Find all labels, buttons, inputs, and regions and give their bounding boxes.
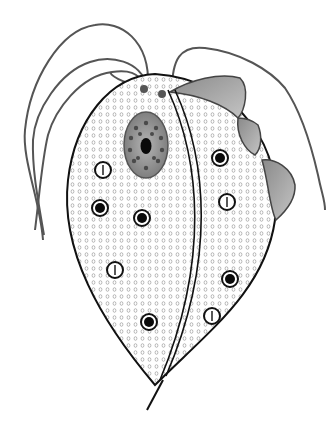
basal-body-left xyxy=(140,85,148,93)
nucleolus xyxy=(141,138,152,154)
basal-body-right xyxy=(158,90,166,98)
protozoan-diagram xyxy=(0,0,335,421)
nucleus xyxy=(124,112,168,178)
